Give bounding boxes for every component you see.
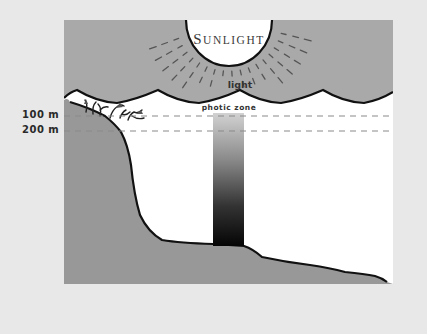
light-penetration-column: [213, 113, 244, 246]
depth-label-200m: 200 m: [22, 124, 59, 135]
light-label: light: [228, 79, 253, 90]
sun-label: SUNLIGHT: [193, 31, 264, 47]
photic-zone-label: photic zone: [202, 103, 257, 112]
depth-label-100m: 100 m: [22, 109, 59, 120]
photic-zone-diagram: SUNLIGHT light photic zone: [0, 0, 427, 334]
